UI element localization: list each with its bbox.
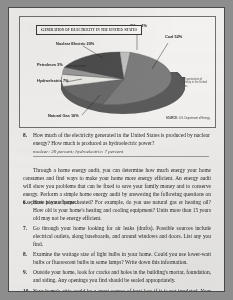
list-item-number: 7. (23, 225, 33, 233)
chart-source: SOURCE: U.S. Department of Energy (166, 117, 215, 120)
question-8-text: How much of the electricity generated in… (33, 132, 211, 148)
pie-label-petroleum: Petroleum 3% (37, 63, 63, 67)
chart-source-label: SOURCE: (166, 117, 178, 120)
question-8-answer: nuclear: 20 percent; hydroelectric: 7 pe… (33, 149, 209, 158)
chart-figure: Other 1% Coal 52% Nuclear Electric 20% P… (19, 16, 216, 128)
list-item-number: 8. (23, 251, 33, 259)
list-item-text: Your home's attic could be a great sourc… (33, 288, 211, 292)
list-item-text: How is your home heated? For example, do… (33, 199, 211, 222)
list-item: 7. Go through your home looking for air … (23, 225, 211, 248)
pie-label-hydroelectric: Hydroelectric 7% (37, 79, 69, 83)
list-item: 8. Examine the wattage size of light bul… (23, 251, 211, 267)
pie-label-nuclear-electric: Nuclear Electric 20% (56, 42, 94, 46)
chart-source-text: U.S. Department of Energy (179, 117, 210, 120)
question-list: 6. How is your home heated? For example,… (23, 199, 211, 292)
list-item: 9. Outside your home, look for cracks an… (23, 269, 211, 285)
list-item-number: 6. (23, 199, 33, 207)
list-item: 6. How is your home heated? For example,… (23, 199, 211, 222)
list-item-number: 10. (23, 288, 33, 292)
question-8-block: 8. How much of the electricity generated… (23, 132, 211, 157)
pie-label-coal: Coal 52% (165, 35, 182, 39)
question-8-row: 8. How much of the electricity generated… (23, 132, 211, 148)
pie-label-natural-gas: Natural Gas 16% (48, 114, 79, 118)
list-item-text: Outside your home, look for cracks and h… (33, 269, 211, 285)
scanned-worksheet-page: Other 1% Coal 52% Nuclear Electric 20% P… (8, 7, 225, 292)
question-8-number: 8. (23, 132, 33, 140)
list-item-text: Examine the wattage size of light bulbs … (33, 251, 211, 267)
list-item: 10. Your home's attic could be a great s… (23, 288, 211, 292)
chart-title-box: Generation of Electricity in the United … (36, 25, 142, 35)
chart-title: Generation of Electricity in the United … (41, 28, 137, 33)
chart-note: Total generation of electricity in the U… (180, 78, 214, 88)
list-item-number: 9. (23, 269, 33, 277)
list-item-text: Go through your home looking for air lea… (33, 225, 211, 248)
